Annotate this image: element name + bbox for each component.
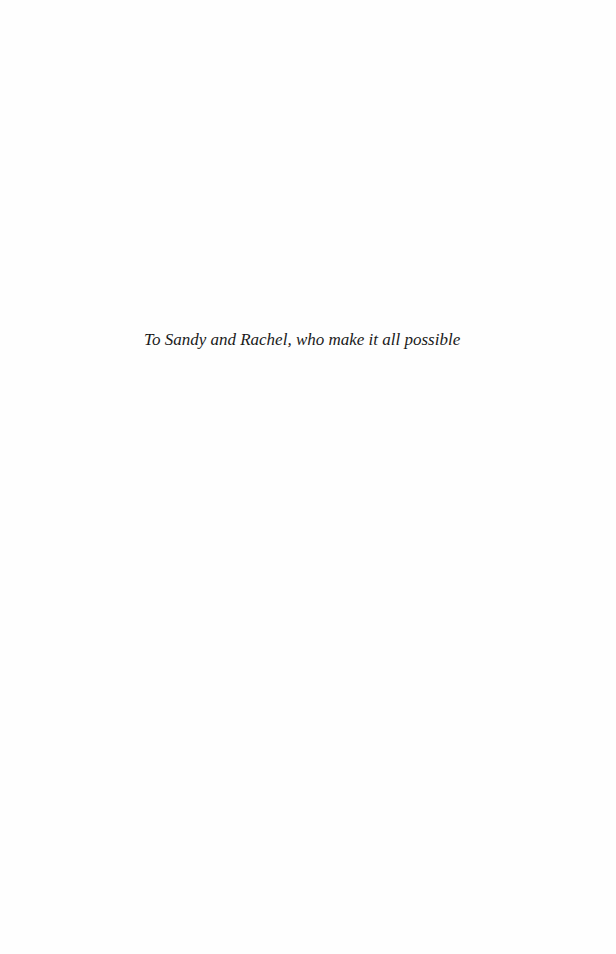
book-page: To Sandy and Rachel, who make it all pos… xyxy=(0,0,616,954)
dedication-text: To Sandy and Rachel, who make it all pos… xyxy=(144,330,460,350)
